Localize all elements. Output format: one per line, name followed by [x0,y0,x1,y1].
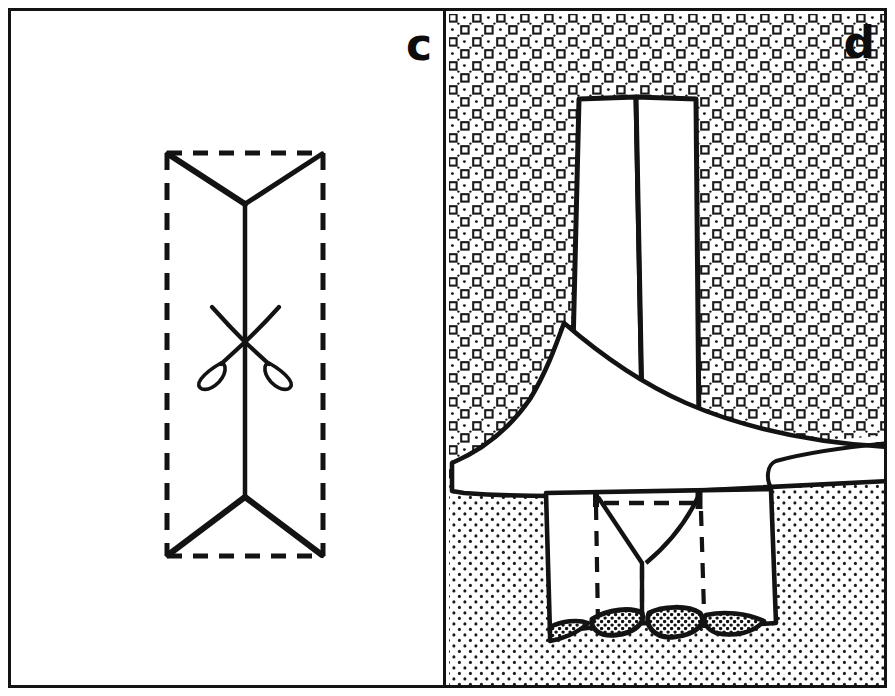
bottom-converging-wedge [168,497,322,555]
panel-c: c [8,8,443,688]
pebble-lens [648,607,703,637]
panel-label-c: c [406,23,431,67]
top-converging-wedge [168,154,322,204]
panel-c-artwork [11,11,443,688]
pebble-lens [592,610,643,636]
panel-d-artwork [446,11,887,688]
panel-label-d: d [844,21,875,65]
figure-root: c [0,0,895,696]
panel-d: d [443,8,887,688]
